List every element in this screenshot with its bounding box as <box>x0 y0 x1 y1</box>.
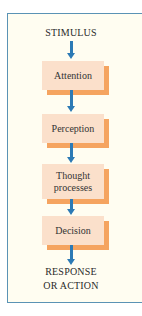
step-label: Attention <box>42 61 104 90</box>
step-thought-processes: Thought processes <box>42 164 109 204</box>
stimulus-label: STIMULUS <box>0 27 142 38</box>
arrow-down-icon <box>68 245 74 265</box>
arrow-down-icon <box>68 199 74 215</box>
step-label-line2: processes <box>54 182 92 194</box>
arrow-down-icon <box>68 41 74 59</box>
response-label-line2: OR ACTION <box>0 280 142 291</box>
step-label: Perception <box>42 114 104 143</box>
arrow-down-icon <box>68 90 74 112</box>
step-decision: Decision <box>42 216 109 250</box>
step-label: Decision <box>42 216 104 245</box>
arrow-down-icon <box>68 143 74 163</box>
step-perception: Perception <box>42 114 109 148</box>
step-attention: Attention <box>42 61 109 95</box>
step-label: Thought processes <box>42 164 104 199</box>
response-label-line1: RESPONSE <box>0 266 142 277</box>
step-label-line1: Thought <box>56 170 90 182</box>
